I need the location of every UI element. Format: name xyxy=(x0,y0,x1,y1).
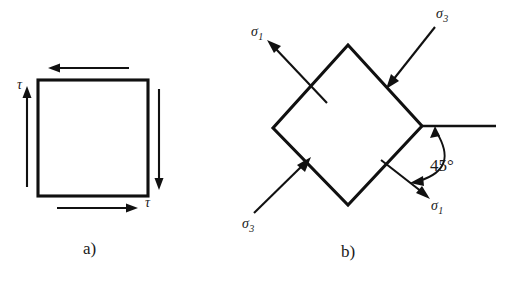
sigma3-label-top-right-base: σ xyxy=(436,6,443,21)
sigma3-arrow-bottom-left xyxy=(254,157,311,213)
sigma3-arrow-top-right xyxy=(386,27,435,89)
tau-label-bottom: τ xyxy=(145,196,150,210)
sigma3-label-top-right-sub: 3 xyxy=(443,13,448,24)
panel-a-group xyxy=(23,64,164,213)
top-shear-arrow xyxy=(48,64,129,73)
bottom-shear-arrow xyxy=(57,204,138,213)
sigma3-label-bottom-left-base: σ xyxy=(242,216,249,231)
tau-label-left: τ xyxy=(17,78,22,92)
panel-b-caption: b) xyxy=(341,243,355,260)
sigma1-label-bottom-right-base: σ xyxy=(431,198,438,213)
sigma1-label-bottom-right: σ1 xyxy=(431,199,443,216)
sigma1-label-top-left-sub: 1 xyxy=(258,31,263,42)
sigma1-label-top-left: σ1 xyxy=(251,25,263,42)
right-shear-arrow xyxy=(155,89,164,190)
sigma3-label-bottom-left-sub: 3 xyxy=(249,223,254,234)
panel-a-caption: a) xyxy=(83,240,96,257)
sigma1-arrow-top-left xyxy=(267,40,327,103)
angle-label-45: 45° xyxy=(430,157,454,174)
figure-canvas xyxy=(0,0,506,284)
panel-b-group xyxy=(254,27,496,213)
square-element xyxy=(38,80,148,196)
stress-element-figure: τ τ a) σ1 σ3 σ3 σ1 45° b) xyxy=(0,0,506,284)
sigma3-label-top-right: σ3 xyxy=(436,7,448,24)
sigma1-label-top-left-base: σ xyxy=(251,24,258,39)
left-shear-arrow xyxy=(23,86,32,187)
sigma3-label-bottom-left: σ3 xyxy=(242,217,254,234)
sigma1-label-bottom-right-sub: 1 xyxy=(438,205,443,216)
